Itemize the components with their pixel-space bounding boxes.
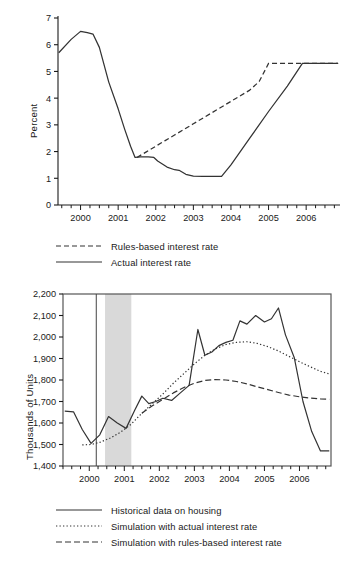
y-tick-label: 2,200 bbox=[33, 289, 56, 299]
y-tick-label: 1,900 bbox=[33, 354, 56, 364]
legend-item-historical: Historical data on housing bbox=[0, 502, 348, 518]
y-tick-label: 5 bbox=[46, 67, 51, 77]
interest-rate-panel: Percent 01234567200020012002200320042005… bbox=[0, 0, 348, 282]
y-tick-label: 3 bbox=[46, 120, 51, 130]
legend-label-rules-based: Rules-based interest rate bbox=[111, 241, 218, 252]
legend-item-sim-rules: Simulation with rules-based interest rat… bbox=[0, 534, 348, 550]
y-tick-label: 1,800 bbox=[33, 375, 56, 385]
legend-item-sim-actual: Simulation with actual interest rate bbox=[0, 518, 348, 534]
y-tick-label: 2,000 bbox=[33, 332, 56, 342]
plot-frame bbox=[63, 294, 331, 466]
legend-item-rules-based: Rules-based interest rate bbox=[0, 238, 348, 254]
x-tick-label: 2006 bbox=[289, 474, 309, 484]
legend-key-solid bbox=[56, 504, 102, 516]
y-tick-label: 0 bbox=[46, 200, 51, 210]
x-tick-label: 2001 bbox=[108, 213, 128, 223]
x-tick-label: 2004 bbox=[221, 213, 241, 223]
x-tick-label: 2002 bbox=[149, 474, 169, 484]
y-tick-label: 7 bbox=[46, 13, 51, 23]
y-tick-label: 6 bbox=[46, 40, 51, 50]
y-tick-label: 2 bbox=[46, 147, 51, 157]
housing-legend: Historical data on housing Simulation wi… bbox=[0, 502, 348, 550]
legend-key-dashdot bbox=[56, 536, 102, 548]
x-tick-label: 2004 bbox=[219, 474, 239, 484]
legend-key-dotted bbox=[56, 520, 102, 532]
legend-key-dashed bbox=[56, 240, 102, 252]
y-tick-label: 4 bbox=[46, 94, 51, 104]
x-tick-label: 2002 bbox=[146, 213, 166, 223]
y-tick-label: 1,400 bbox=[33, 461, 56, 471]
series-line bbox=[65, 308, 330, 451]
legend-label-actual: Actual interest rate bbox=[111, 257, 191, 268]
x-tick-label: 2005 bbox=[258, 213, 278, 223]
y-tick-label: 1,500 bbox=[33, 440, 56, 450]
y-tick-label: 2,100 bbox=[33, 311, 56, 321]
x-tick-label: 2001 bbox=[114, 474, 134, 484]
x-tick-label: 2000 bbox=[70, 213, 90, 223]
x-tick-label: 2000 bbox=[79, 474, 99, 484]
legend-key-solid bbox=[56, 256, 102, 268]
legend-item-actual: Actual interest rate bbox=[0, 254, 348, 270]
housing-starts-plot: 1,4001,5001,6001,7001,8001,9002,0002,100… bbox=[0, 282, 348, 497]
x-tick-label: 2005 bbox=[254, 474, 274, 484]
series-line bbox=[59, 31, 338, 176]
housing-panel: Thousands of Units 1,4001,5001,6001,7001… bbox=[0, 282, 348, 565]
y-tick-label: 1,700 bbox=[33, 397, 56, 407]
series-line bbox=[142, 380, 329, 414]
x-tick-label: 2006 bbox=[296, 213, 316, 223]
y-axis-title-thousands-of-units: Thousands of Units bbox=[24, 374, 35, 460]
series-line bbox=[137, 63, 338, 157]
y-tick-label: 1,600 bbox=[33, 418, 56, 428]
y-axis-title-percent: Percent bbox=[28, 104, 39, 138]
x-tick-label: 2003 bbox=[183, 213, 203, 223]
y-tick-label: 1 bbox=[46, 174, 51, 184]
recession-shaded-band bbox=[105, 294, 131, 466]
interest-rate-plot: 012345672000200120022003200420052006 bbox=[0, 0, 348, 232]
legend-label-sim-rules: Simulation with rules-based interest rat… bbox=[111, 537, 282, 548]
legend-label-sim-actual: Simulation with actual interest rate bbox=[111, 521, 257, 532]
x-tick-label: 2003 bbox=[184, 474, 204, 484]
series-group bbox=[65, 308, 330, 451]
legend-label-historical: Historical data on housing bbox=[111, 505, 221, 516]
interest-rate-legend: Rules-based interest rate Actual interes… bbox=[0, 238, 348, 270]
